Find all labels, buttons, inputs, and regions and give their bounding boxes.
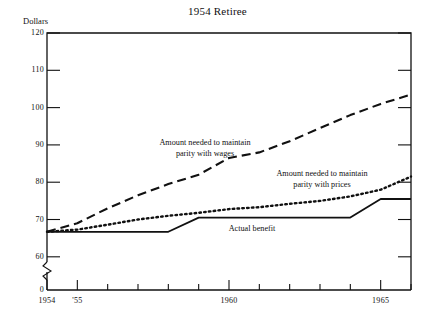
actual-benefit-annotation: Actual benefit (182, 224, 322, 235)
y-tick-label-90: 90 (18, 140, 44, 149)
y-tick-label-80: 80 (18, 177, 44, 186)
wages-annotation: Amount needed to maintainparity with wag… (135, 138, 275, 159)
axis-frame (47, 33, 411, 290)
x-tick-label-1960: 1960 (209, 296, 249, 305)
prices-annotation: Amount needed to maintainparity with pri… (252, 169, 392, 190)
prices-annotation-line2: parity with prices (252, 180, 392, 191)
x-tick-label-1965: 1965 (361, 296, 401, 305)
y-tick-label-120: 120 (18, 28, 44, 37)
plot-area (0, 0, 435, 319)
wages-annotation-line2: parity with wages (135, 149, 275, 160)
prices-annotation-line1: Amount needed to maintain (252, 169, 392, 180)
actual-benefit-annotation-line1: Actual benefit (182, 224, 322, 235)
chart-container: 1954 Retiree Dollars 607080901001101200 … (0, 0, 435, 319)
wages-annotation-line1: Amount needed to maintain (135, 138, 275, 149)
series-line-0 (47, 95, 411, 232)
y-tick-label-110: 110 (18, 65, 44, 74)
y-tick-label-zero: 0 (18, 285, 44, 294)
y-tick-label-60: 60 (18, 252, 44, 261)
y-tick-label-100: 100 (18, 103, 44, 112)
y-tick-label-70: 70 (18, 215, 44, 224)
x-tick-label-1955: '55 (57, 296, 97, 305)
